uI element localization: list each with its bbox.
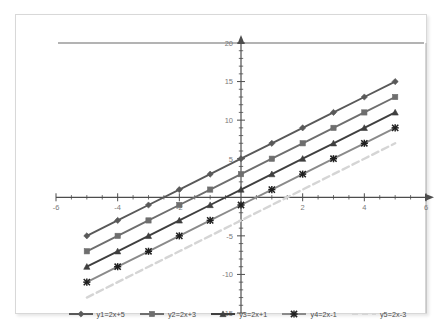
x-tick-label: 2 — [301, 203, 305, 212]
marker-cross — [392, 124, 399, 131]
legend-item-3[interactable]: y3=2x+1 — [210, 309, 267, 319]
legend-marker-diamond-icon — [68, 309, 94, 319]
marker-diamond — [176, 186, 182, 192]
marker-square — [269, 156, 274, 161]
legend-label: y2=2x+3 — [168, 310, 196, 319]
legend-item-2[interactable]: y2=2x+3 — [139, 309, 196, 319]
legend-marker-none-icon — [351, 309, 377, 319]
y-tick-label: 20 — [225, 39, 233, 48]
marker-square — [300, 141, 305, 146]
marker-square — [331, 125, 336, 130]
chart-screenshot: -6-4-2246-15-10-55101520 y1=2x+5y2=2x+3y… — [0, 0, 442, 335]
marker-cross — [361, 140, 368, 147]
marker-square — [208, 187, 213, 192]
marker-diamond — [84, 233, 90, 239]
marker-cross — [291, 310, 298, 317]
marker-triangle — [392, 109, 398, 115]
marker-diamond — [330, 109, 336, 115]
marker-diamond — [361, 94, 367, 100]
x-tick-label: -6 — [53, 203, 60, 212]
coordinate-plot: -6-4-2246-15-10-55101520 — [38, 35, 436, 323]
marker-cross — [114, 263, 121, 270]
marker-diamond — [145, 202, 151, 208]
marker-square — [362, 110, 367, 115]
legend-item-5[interactable]: y5=2x-3 — [351, 309, 406, 319]
legend-item-4[interactable]: y4=2x-1 — [281, 309, 336, 319]
legend-marker-square-icon — [139, 309, 165, 319]
marker-cross — [299, 171, 306, 178]
marker-diamond — [77, 311, 83, 317]
marker-cross — [207, 217, 214, 224]
legend-label: y3=2x+1 — [239, 310, 267, 319]
marker-cross — [83, 279, 90, 286]
chart-frame: -6-4-2246-15-10-55101520 y1=2x+5y2=2x+3y… — [15, 14, 427, 314]
marker-cross — [145, 248, 152, 255]
marker-cross — [237, 201, 244, 208]
y-tick-label: -5 — [226, 232, 233, 241]
legend-label: y4=2x-1 — [310, 310, 336, 319]
marker-diamond — [300, 125, 306, 131]
marker-diamond — [115, 217, 121, 223]
marker-cross — [268, 186, 275, 193]
legend-marker-triangle-icon — [210, 309, 236, 319]
plot-area: -6-4-2246-15-10-55101520 — [38, 35, 436, 323]
y-tick-label: 10 — [225, 116, 233, 125]
marker-cross — [330, 155, 337, 162]
y-tick-label: 15 — [225, 77, 233, 86]
marker-diamond — [392, 78, 398, 84]
marker-cross — [176, 232, 183, 239]
marker-diamond — [238, 156, 244, 162]
marker-square — [84, 249, 89, 254]
x-tick-label: 6 — [424, 203, 428, 212]
marker-diamond — [207, 171, 213, 177]
marker-diamond — [269, 140, 275, 146]
legend-item-1[interactable]: y1=2x+5 — [68, 309, 125, 319]
marker-square — [393, 94, 398, 99]
marker-square — [149, 311, 154, 316]
marker-square — [238, 172, 243, 177]
marker-square — [115, 233, 120, 238]
x-tick-label: 4 — [362, 203, 366, 212]
legend-marker-cross-icon — [281, 309, 307, 319]
legend-label: y5=2x-3 — [380, 310, 406, 319]
chart-legend: y1=2x+5y2=2x+3y3=2x+1y4=2x-1y5=2x-3 — [38, 303, 436, 325]
marker-square — [146, 218, 151, 223]
legend-label: y1=2x+5 — [97, 310, 125, 319]
marker-square — [177, 202, 182, 207]
x-tick-label: -4 — [114, 203, 121, 212]
y-tick-label: -10 — [222, 270, 233, 279]
